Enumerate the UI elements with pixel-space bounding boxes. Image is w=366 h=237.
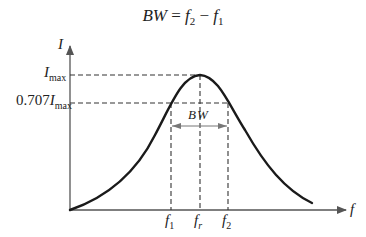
fr-sub: r xyxy=(198,220,202,231)
f2-sub: 2 xyxy=(226,220,231,231)
fr-label: fr xyxy=(194,212,202,231)
y-axis-label: I xyxy=(58,36,63,53)
resonance-curve-diagram xyxy=(0,0,366,237)
f1-sub: 1 xyxy=(169,220,174,231)
half-power-coef: 0.707 xyxy=(16,92,50,108)
x-axis-label: f xyxy=(350,201,354,218)
imax-label: Imax xyxy=(44,64,66,83)
resonance-curve xyxy=(70,75,312,210)
half-power-label: 0.707Imax xyxy=(16,92,72,111)
half-power-sub: max xyxy=(55,100,72,111)
bandwidth-label: BW xyxy=(188,107,209,123)
imax-sub: max xyxy=(49,72,66,83)
f2-label: f2 xyxy=(222,212,231,231)
f1-label: f1 xyxy=(165,212,174,231)
